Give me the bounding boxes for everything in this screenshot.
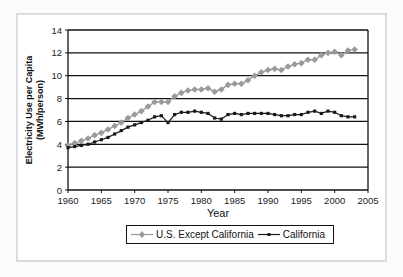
data-point [353,115,356,118]
data-point [298,60,305,67]
legend-item-california: California [258,229,325,240]
data-point [320,112,323,115]
data-point [346,115,349,118]
y-axis-title-line1: Electricity Use per Capita [24,55,34,165]
data-point [300,113,303,116]
data-point [278,67,285,74]
y-tick-label: 12 [51,47,62,58]
data-point [166,121,169,124]
data-point [273,113,276,116]
data-point [351,46,358,53]
data-point [291,61,298,68]
x-axis-title: Year [207,207,230,219]
data-point [185,87,192,94]
data-point [211,88,218,95]
data-point [73,145,76,148]
diamond-line-icon [131,230,153,239]
data-point [206,112,209,115]
data-point [306,111,309,114]
data-point [200,111,203,114]
data-point [240,113,243,116]
data-point [226,113,229,116]
data-point [191,86,198,93]
x-tick-label: 2000 [324,195,345,206]
data-point [340,114,343,117]
data-point [331,48,338,55]
data-point [106,136,109,139]
data-point [80,144,83,147]
data-point [93,140,96,143]
data-point [333,111,336,114]
data-point [286,114,289,117]
data-point [131,111,138,118]
data-point [265,67,272,74]
y-tick-label: 2 [57,162,62,173]
data-point [91,132,98,139]
data-point [213,116,216,119]
data-point [66,146,69,149]
data-point [220,118,223,121]
data-point [160,114,163,117]
y-axis-title-line2: (MWh/person) [35,80,45,140]
x-tick-label: 1980 [191,195,212,206]
data-point [193,110,196,113]
data-point [280,114,283,117]
data-point [260,112,263,115]
data-point [238,80,245,87]
x-tick-label: 1965 [91,195,112,206]
gridlines [68,30,368,167]
legend-label: U.S. Except California [156,229,254,240]
data-point [258,69,265,76]
data-point [293,113,296,116]
y-tick-label: 14 [51,25,62,36]
x-tick-label: 2005 [357,195,378,206]
y-tick-label: 10 [51,70,62,81]
data-point [133,123,136,126]
data-point [326,110,329,113]
data-point [78,138,85,145]
data-point [186,111,189,114]
series-us-except-california [65,46,358,149]
data-point [325,50,332,57]
y-axis-title: Electricity Use per Capita (MWh/person) [24,55,45,165]
data-point [198,86,205,93]
data-point [266,112,269,115]
data-point [253,112,256,115]
data-point [153,115,156,118]
x-tick-label: 1985 [224,195,245,206]
data-point [233,112,236,115]
data-point [305,56,312,63]
data-point [140,121,143,124]
x-tick-label: 1975 [157,195,178,206]
data-point [146,119,149,122]
data-series [65,46,358,149]
legend-label: California [283,229,325,240]
data-point [158,99,165,106]
y-tick-labels: 02468101214 [51,25,62,196]
x-tick-labels: 1960196519701975198019851990199520002005 [57,195,378,206]
data-point [85,135,92,142]
data-point [100,138,103,141]
x-tick-label: 1970 [124,195,145,206]
data-point [313,110,316,113]
legend: U.S. Except California California [126,225,334,244]
data-point [231,80,238,87]
data-point [86,143,89,146]
square-line-icon [258,230,280,239]
x-tick-label: 1995 [291,195,312,206]
y-tick-label: 0 [57,185,62,196]
data-point [98,130,105,137]
data-point [126,126,129,129]
data-point [178,90,185,97]
data-point [271,66,278,73]
data-point [105,126,112,133]
data-point [173,113,176,116]
legend-item-us-except-california: U.S. Except California [131,229,254,240]
x-tick-label: 1960 [57,195,78,206]
y-tick-label: 6 [57,116,62,127]
x-tick-label: 1990 [257,195,278,206]
data-point [113,132,116,135]
data-point [285,63,292,70]
data-point [111,123,118,130]
y-tick-label: 8 [57,93,62,104]
